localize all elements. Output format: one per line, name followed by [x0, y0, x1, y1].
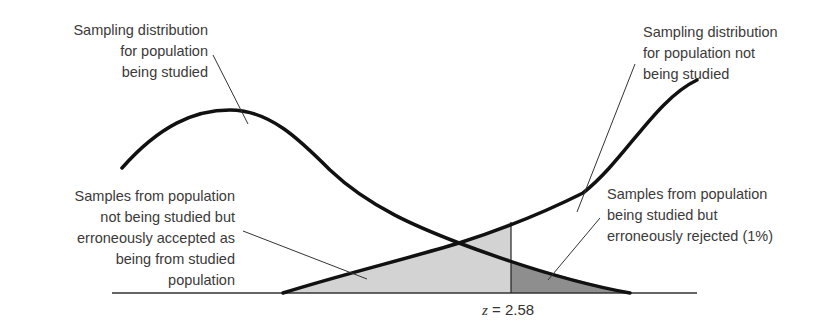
leader-line-studied — [213, 55, 248, 124]
z-value: 2.58 — [505, 301, 534, 318]
leader-line-rejected — [548, 218, 600, 280]
type-i-region-label: Samples from population being studied bu… — [607, 184, 837, 247]
z-equals-sign: = — [488, 301, 505, 318]
type-ii-region-label: Samples from population not being studie… — [20, 186, 235, 291]
not-studied-distribution-label: Sampling distribution for population not… — [643, 22, 833, 85]
leader-line-accepted — [243, 231, 367, 279]
studied-distribution-label: Sampling distribution for population bei… — [20, 20, 208, 83]
critical-value-label: z = 2.58 — [482, 299, 534, 321]
